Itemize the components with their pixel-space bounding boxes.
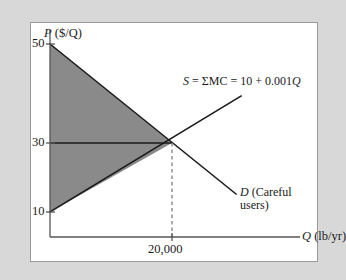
demand-curve-label: D (Careful users) xyxy=(240,186,304,213)
y-axis-title: P ($/Q) xyxy=(44,26,82,40)
figure-root: P ($/Q) Q (lb/yr) 50 30 10 20,000 S = ΣM… xyxy=(0,0,346,280)
demand-label-symbol: D xyxy=(240,185,249,199)
supply-label-equation: = ΣMC = 10 + 0.001 xyxy=(189,74,292,88)
chart-canvas xyxy=(0,0,346,280)
y-tick-label-50: 50 xyxy=(32,36,45,50)
x-axis-title-units: (lb/yr) xyxy=(311,229,346,243)
y-axis-title-units: ($/Q) xyxy=(52,26,82,40)
x-axis-title: Q (lb/yr) xyxy=(302,229,346,243)
y-tick-label-10: 10 xyxy=(32,204,45,218)
y-tick-label-30: 30 xyxy=(32,135,45,149)
demand-label-text: (Careful users) xyxy=(240,185,292,212)
supply-curve-label: S = ΣMC = 10 + 0.001Q xyxy=(183,75,301,88)
x-tick-label-20000: 20,000 xyxy=(148,242,182,256)
y-axis-title-symbol: P xyxy=(44,26,52,40)
x-axis-title-symbol: Q xyxy=(302,229,311,243)
supply-label-q: Q xyxy=(292,74,301,88)
